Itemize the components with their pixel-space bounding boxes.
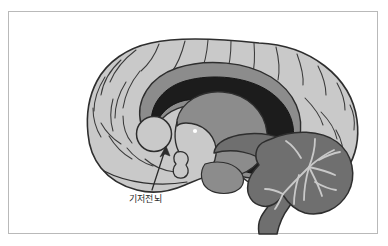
figure-frame: 기저전뇌 — [8, 11, 378, 234]
pituitary-stalk-group — [173, 152, 188, 179]
cerebellum-group — [248, 132, 353, 214]
figure-root: 기저전뇌 — [0, 0, 388, 246]
cerebellum-shape — [248, 132, 353, 214]
pituitary-stalk-shape — [173, 152, 188, 179]
interventricular-foramen-dot — [193, 129, 197, 133]
annotation-label-basal-forebrain: 기저전뇌 — [129, 192, 162, 205]
brain-sagittal-diagram — [9, 12, 379, 235]
